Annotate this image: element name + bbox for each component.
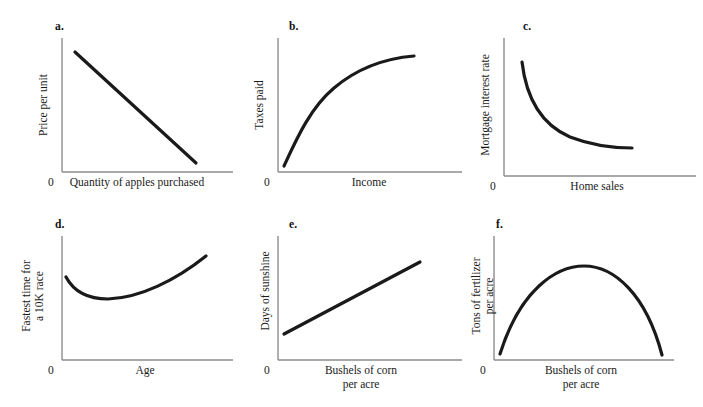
panel-b-origin-label: 0	[264, 176, 270, 188]
x-axis-label-line: per acre	[496, 378, 666, 392]
y-axis-label-line: a 10K race	[33, 226, 46, 366]
y-axis-label-line: Days of sunshine	[259, 221, 272, 361]
y-axis-label-line: Tons of fertilizer	[470, 226, 483, 366]
panel-b-y-axis-label: Taxes paid	[253, 35, 267, 175]
panel-b: b. Taxes paid Income 0	[234, 0, 468, 203]
data-curve-decreasing-line	[75, 52, 196, 163]
panel-d-x-axis-label: Age	[60, 364, 230, 378]
x-axis-label-line: Home sales	[512, 180, 682, 194]
panel-c-plot	[468, 0, 702, 203]
data-curve-concave-increasing	[284, 56, 414, 166]
panel-d-y-axis-label: Fastest time for a 10K race	[20, 226, 48, 366]
y-axis-label-line: Mortgage interest rate	[479, 35, 492, 175]
y-axis-label-line: per acre	[483, 226, 496, 366]
panel-a-origin-label: 0	[48, 176, 54, 188]
panel-e-y-axis-label: Days of sunshine	[259, 221, 273, 361]
panel-c: c. Mortgage interest rate Home sales 0	[468, 0, 702, 203]
data-curve-inverted-u	[500, 266, 662, 355]
panel-a-x-axis-label: Quantity of apples purchased	[52, 176, 222, 190]
panel-f-origin-label: 0	[480, 364, 486, 376]
x-axis-label-line: Bushels of corn	[496, 364, 666, 378]
panel-a-plot	[0, 0, 234, 203]
data-curve-increasing-line	[284, 262, 420, 334]
panel-b-plot	[234, 0, 468, 203]
data-curve-u-shaped	[66, 256, 206, 299]
panel-c-origin-label: 0	[490, 180, 496, 192]
panel-c-y-axis-label: Mortgage interest rate	[479, 35, 493, 175]
y-axis-label-line: Taxes paid	[253, 35, 266, 175]
panel-e-origin-label: 0	[264, 364, 270, 376]
x-axis-label-line: Age	[60, 364, 230, 378]
panel-f-x-axis-label: Bushels of corn per acre	[496, 364, 666, 391]
x-axis-label-line: per acre	[276, 378, 446, 392]
panel-b-x-axis-label: Income	[284, 176, 454, 190]
panel-d-origin-label: 0	[48, 364, 54, 376]
panel-f-y-axis-label: Tons of fertilizer per acre	[470, 226, 498, 366]
y-axis-label-line: Price per unit	[37, 35, 50, 175]
panel-a-y-axis-label: Price per unit	[37, 35, 51, 175]
y-axis-label-line: Fastest time for	[20, 226, 33, 366]
panel-e-x-axis-label: Bushels of corn per acre	[276, 364, 446, 391]
figure-canvas: a. Price per unit Quantity of apples pur…	[0, 0, 703, 407]
panel-f: f. Tons of fertilizer per acre Bushels o…	[468, 204, 702, 407]
panel-a: a. Price per unit Quantity of apples pur…	[0, 0, 234, 203]
x-axis-label-line: Income	[284, 176, 454, 190]
panel-c-x-axis-label: Home sales	[512, 180, 682, 194]
data-curve-convex-decreasing	[522, 62, 632, 148]
x-axis-label-line: Quantity of apples purchased	[52, 176, 222, 190]
x-axis-label-line: Bushels of corn	[276, 364, 446, 378]
panel-e: e. Days of sunshine Bushels of corn per …	[234, 204, 468, 407]
panel-d: d. Fastest time for a 10K race Age 0	[0, 204, 234, 407]
